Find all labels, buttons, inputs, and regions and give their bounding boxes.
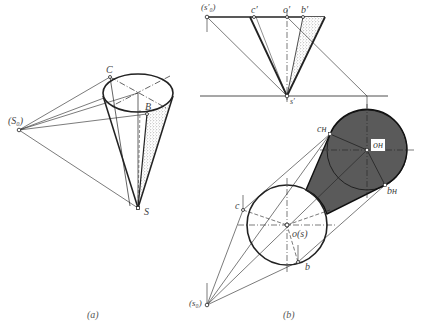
figure-b-front-view: [200, 10, 388, 108]
point-c-plan-marker: [242, 209, 245, 212]
label-c-plan: c: [235, 201, 239, 211]
point-c-prime-marker: [253, 16, 256, 19]
label-b-prime: b′: [301, 5, 308, 15]
label-s: S: [144, 207, 149, 217]
label-c-prime: c′: [251, 5, 258, 15]
label-s0: (S₀): [8, 116, 23, 126]
label-b: B: [145, 102, 151, 112]
label-s0-prime: (s′₀): [201, 3, 216, 12]
label-c: C: [106, 65, 113, 75]
point-b-plan-marker: [297, 261, 300, 264]
point-s0-prime-marker: [205, 15, 209, 19]
caption-a: (a): [87, 310, 99, 320]
point-o-prime-marker: [286, 16, 289, 19]
label-s-prime: s′: [290, 98, 295, 106]
label-s0-plan: (s₀): [189, 299, 202, 308]
figure-a-cone: [17, 74, 173, 210]
label-o-prime: o′: [283, 5, 290, 15]
label-c-h: cʜ: [317, 124, 327, 134]
caption-b: (b): [283, 310, 295, 320]
point-c-marker: [109, 76, 112, 79]
point-os-marker: [285, 223, 289, 227]
point-b-prime-marker: [302, 16, 305, 19]
point-s-marker: [137, 207, 140, 210]
point-ch-marker: [329, 133, 332, 136]
point-s0-plan-marker: [205, 303, 209, 307]
label-b-h: bʜ: [387, 186, 397, 196]
label-b-plan: b: [305, 262, 310, 272]
point-s0-marker: [17, 128, 21, 132]
point-b-marker: [146, 113, 149, 116]
point-oh-marker: [366, 149, 369, 152]
label-os: o(s): [292, 229, 308, 239]
label-o-h: oʜ: [371, 139, 385, 151]
diagram-canvas: [0, 0, 421, 328]
point-s-prime-marker: [285, 94, 289, 98]
